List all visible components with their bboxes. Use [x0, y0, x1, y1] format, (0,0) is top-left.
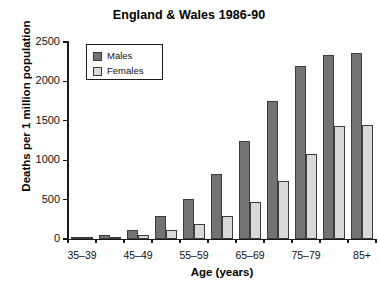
- bar-males-35-39: [71, 237, 82, 239]
- x-axis-tick: [123, 239, 124, 243]
- x-axis-tick: [347, 239, 348, 243]
- x-axis-tick: [291, 239, 292, 243]
- chart-title: England & Wales 1986-90: [0, 8, 378, 22]
- x-axis-tick: [263, 239, 264, 243]
- y-axis-tick-label: 0: [0, 232, 60, 244]
- bar-females-80-84: [334, 126, 345, 239]
- x-axis-title: Age (years): [68, 266, 376, 278]
- x-axis-tick: [95, 239, 96, 243]
- y-axis-tick-label: 1000: [0, 153, 60, 165]
- x-axis-tick-label: 45–49: [108, 249, 168, 261]
- bar-males-40-44: [99, 235, 110, 239]
- chart-legend: Males Females: [86, 44, 163, 80]
- bar-females-75-79: [306, 154, 317, 239]
- y-axis-tick-label: 2000: [0, 74, 60, 86]
- x-axis-tick-label: 65–69: [220, 249, 280, 261]
- x-axis-tick: [235, 239, 236, 243]
- bar-females-70-74: [278, 181, 289, 239]
- x-axis-tick-label: 85+: [332, 249, 378, 261]
- x-axis-tick: [207, 239, 208, 243]
- bar-females-40-44: [110, 237, 121, 239]
- bar-females-85+: [362, 125, 373, 239]
- bar-males-75-79: [295, 66, 306, 239]
- bar-males-55-59: [183, 199, 194, 239]
- bar-females-35-39: [82, 237, 93, 239]
- bar-females-65-69: [250, 202, 261, 239]
- x-axis-tick: [67, 239, 68, 243]
- y-axis-tick-label: 500: [0, 193, 60, 205]
- bar-males-85+: [351, 53, 362, 239]
- legend-swatch-females-icon: [93, 67, 102, 76]
- bar-chart: England & Wales 1986-90 Deaths per 1 mil…: [0, 0, 378, 289]
- bar-males-50-54: [155, 216, 166, 239]
- legend-item-males: Males: [93, 49, 162, 63]
- x-axis-tick-label: 35–39: [52, 249, 112, 261]
- bar-males-70-74: [267, 101, 278, 239]
- bar-females-60-64: [222, 216, 233, 239]
- bar-males-80-84: [323, 55, 334, 239]
- x-axis-tick-label: 55–59: [164, 249, 224, 261]
- bar-females-55-59: [194, 224, 205, 239]
- x-axis-tick: [375, 239, 376, 243]
- x-axis-tick: [151, 239, 152, 243]
- bar-males-60-64: [211, 174, 222, 239]
- y-axis-tick-label: 2500: [0, 35, 60, 47]
- legend-label-males: Males: [107, 51, 132, 61]
- legend-label-females: Females: [107, 66, 143, 76]
- legend-item-females: Females: [93, 64, 162, 78]
- legend-swatch-males-icon: [93, 52, 102, 61]
- x-axis-tick-label: 75–79: [276, 249, 336, 261]
- bar-males-65-69: [239, 141, 250, 240]
- x-axis-tick: [179, 239, 180, 243]
- bar-males-45-49: [127, 230, 138, 239]
- bar-females-50-54: [166, 230, 177, 239]
- y-axis-tick-label: 1500: [0, 114, 60, 126]
- bar-females-45-49: [138, 235, 149, 239]
- x-axis-tick: [319, 239, 320, 243]
